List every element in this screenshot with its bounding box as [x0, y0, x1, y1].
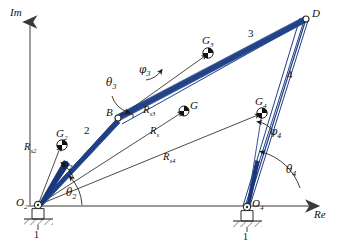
- re-axis-label: Re: [314, 209, 326, 220]
- cg-label-G4: G4: [255, 96, 267, 110]
- cg-label-G2: G2: [56, 128, 68, 142]
- angle-label-phi3: φ3: [139, 64, 151, 78]
- link-number-4: 4: [287, 69, 293, 80]
- vector-label-Rs2: Rs2: [24, 142, 36, 155]
- angle-label-phi4: φ4: [270, 126, 282, 140]
- ground-label-right: 1: [243, 232, 248, 242]
- angle-label-theta2: θ2: [66, 187, 77, 201]
- cg-label-G3: G3: [202, 35, 214, 49]
- joint-B[interactable]: [115, 115, 121, 121]
- cg-label-G: G: [190, 100, 198, 111]
- point-label-O4: O4: [252, 198, 264, 212]
- point-label-O2: O2: [16, 197, 28, 211]
- ground-label-left: 1: [34, 230, 39, 240]
- point-label-B: B: [106, 107, 113, 118]
- arc-theta3: [112, 96, 128, 112]
- cg-marker-G3: [203, 48, 213, 58]
- joint-D[interactable]: [303, 16, 309, 22]
- link-2[interactable]: [36, 118, 120, 209]
- link-number-3: 3: [248, 28, 254, 39]
- im-axis-label: Im: [10, 7, 22, 18]
- vector-label-Rs4: Rs4: [163, 152, 175, 165]
- angle-label-phi2: φ2: [61, 158, 73, 172]
- angle-label-theta3: θ3: [106, 77, 117, 91]
- angle-label-theta4: θ4: [286, 164, 297, 178]
- vector-label-Rs3: Rs3: [143, 105, 155, 118]
- position-vectors: [38, 56, 258, 205]
- cg-marker-G: [179, 106, 189, 116]
- linkage-diagram: [0, 0, 341, 249]
- vector-label-Rs: Rs: [150, 126, 159, 139]
- point-label-D: D: [312, 8, 320, 19]
- figure-canvas: Im Re O2 O4 B D G2 G3 G4 G 2 3 4 1 1 Rs2…: [0, 0, 341, 249]
- link-number-2: 2: [84, 125, 90, 136]
